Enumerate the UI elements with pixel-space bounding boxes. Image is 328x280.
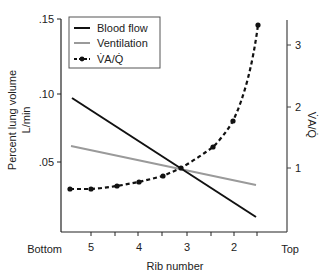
series-blood-flow	[72, 98, 256, 217]
right-tick-label: 3	[295, 39, 301, 51]
bottom-tick-label: 2	[231, 241, 237, 253]
bottom-ticks: 5 4 3 2 Bottom Top	[27, 232, 299, 255]
bottom-tick-label: 5	[88, 241, 94, 253]
y-axis-label-right: V̇A/Q̇	[306, 112, 318, 139]
chart: .15 .10 .05 3 2 1 5 4 3 2 Bottom Top Rib…	[0, 0, 328, 280]
left-ticks: .15 .10 .05	[39, 13, 61, 168]
bottom-end-label-bottom: Bottom	[27, 243, 62, 255]
bottom-tick-label: 3	[184, 241, 190, 253]
legend-label-ventilation: Ventilation	[97, 37, 148, 49]
y-axis-label-left-line1: Percent lung volume	[6, 70, 18, 170]
legend: Blood flow Ventilation V̇A/Q̇	[69, 17, 160, 68]
right-tick-label: 2	[295, 101, 301, 113]
legend-marker-icon	[80, 57, 85, 62]
left-tick-label: .10	[39, 88, 54, 100]
x-axis-label: Rib number	[147, 260, 204, 272]
legend-label-blood-flow: Blood flow	[97, 22, 148, 34]
left-tick-label: .05	[39, 156, 54, 168]
bottom-tick-label: 4	[136, 241, 142, 253]
bottom-end-label-top: Top	[281, 243, 299, 255]
y-axis-label-left-line2: L/min	[20, 107, 32, 134]
series-ventilation	[71, 146, 256, 185]
left-tick-label: .15	[39, 13, 54, 25]
right-ticks: 3 2 1	[287, 39, 301, 174]
right-tick-label: 1	[295, 162, 301, 174]
legend-label-va-q: V̇A/Q̇	[97, 53, 124, 65]
